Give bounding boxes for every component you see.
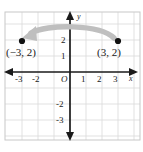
plot-background [5,12,140,140]
point-label-right: (3, 2) [97,47,121,58]
y-tick-label-1: 1 [61,52,66,61]
x-tick-label-neg2: -2 [32,75,40,84]
x-tick-label-neg3: -3 [15,75,23,84]
y-tick-label-2: 2 [61,36,66,45]
point-label-left: (−3, 2) [6,47,36,58]
plotted-point-right [115,38,121,44]
x-tick-label-2: 2 [97,75,102,84]
y-axis-name: y [77,13,81,21]
x-tick-label-3: 3 [113,75,118,84]
y-tick-label-neg3: -3 [56,116,64,125]
x-axis-name: x [129,75,133,83]
plotted-point-left [19,38,25,44]
x-tick-label-1: 1 [81,75,86,84]
coordinate-plane-figure: y x O -3 -2 1 2 3 2 1 -2 -3 (−3, 2) (3, … [0,0,143,152]
origin-label: O [61,75,68,84]
y-tick-label-neg2: -2 [56,100,64,109]
